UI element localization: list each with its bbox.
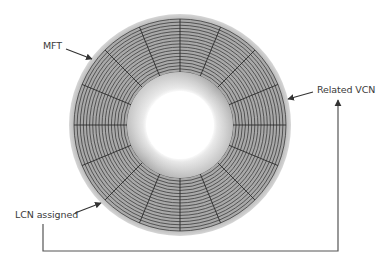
mft-label: MFT	[43, 41, 62, 51]
related-vcn-label: Related VCN	[317, 85, 375, 95]
disk-center-hole	[146, 91, 214, 159]
mft-arrow	[66, 49, 92, 59]
lcn-assigned-arrow	[75, 203, 101, 213]
lcn-assigned-label: LCN assigned	[15, 210, 78, 220]
disk-platter	[69, 14, 291, 236]
related-vcn-arrow	[288, 92, 313, 99]
